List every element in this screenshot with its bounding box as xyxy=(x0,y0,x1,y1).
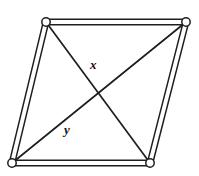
parallelogram-diagram-canvas xyxy=(0,0,199,176)
vertex-joint-top-right xyxy=(182,18,190,26)
vertex-joint-bottom-right xyxy=(146,159,154,167)
vertex-joint-bottom-left xyxy=(8,159,16,167)
diagonal-y-label: y xyxy=(64,123,70,136)
edge-left-inner-rail xyxy=(10,22,44,161)
edge-right xyxy=(147,21,188,162)
edge-right-outer-rail xyxy=(147,21,183,162)
diagonal-x-label: x xyxy=(90,58,97,71)
geometry-figure: x y xyxy=(0,0,199,176)
edge-left-outer-rail xyxy=(15,23,49,164)
vertex-joint-top-left xyxy=(42,18,50,26)
edge-top xyxy=(46,19,186,24)
edge-left xyxy=(10,22,49,163)
edge-bottom xyxy=(12,160,150,165)
